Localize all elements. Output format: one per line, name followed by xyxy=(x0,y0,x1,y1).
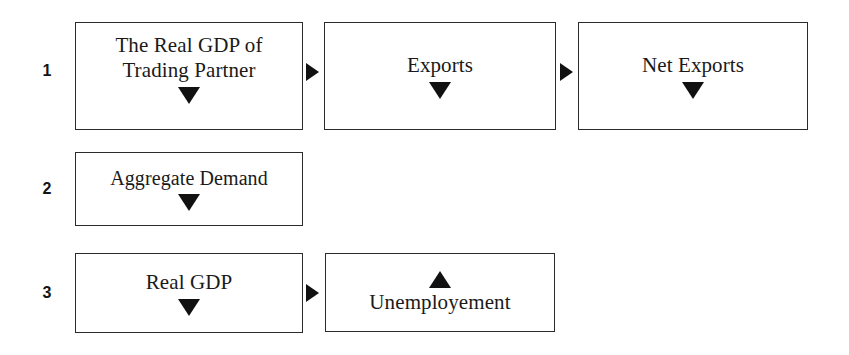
row-number-3: 3 xyxy=(36,285,58,301)
down-triangle-icon xyxy=(178,87,200,104)
box-unemployment[interactable]: Unemployement xyxy=(325,253,555,332)
row-number-2: 2 xyxy=(36,181,58,197)
box-label-unemployment: Unemployement xyxy=(369,290,510,315)
connector-arrow-icon-1b xyxy=(560,63,573,81)
box-label-aggregate-demand: Aggregate Demand xyxy=(110,167,268,191)
flowchart-diagram: 1 The Real GDP of Trading Partner Export… xyxy=(0,0,849,355)
row-number-1: 1 xyxy=(36,63,58,79)
box-net-exports[interactable]: Net Exports xyxy=(578,22,808,130)
up-triangle-icon xyxy=(429,271,451,288)
box-label-real-gdp: Real GDP xyxy=(146,270,233,295)
down-triangle-icon xyxy=(429,82,451,99)
box-real-gdp[interactable]: Real GDP xyxy=(75,253,303,333)
box-label-real-gdp-trading-partner: The Real GDP of Trading Partner xyxy=(115,33,262,83)
box-aggregate-demand[interactable]: Aggregate Demand xyxy=(75,152,303,226)
down-triangle-icon xyxy=(178,194,200,211)
box-exports[interactable]: Exports xyxy=(324,22,556,130)
down-triangle-icon xyxy=(178,299,200,316)
box-label-exports: Exports xyxy=(407,53,473,78)
box-real-gdp-trading-partner[interactable]: The Real GDP of Trading Partner xyxy=(75,22,303,130)
box-label-net-exports: Net Exports xyxy=(642,53,744,78)
connector-arrow-icon-1a xyxy=(306,63,319,81)
down-triangle-icon xyxy=(682,82,704,99)
connector-arrow-icon-3a xyxy=(306,284,319,302)
